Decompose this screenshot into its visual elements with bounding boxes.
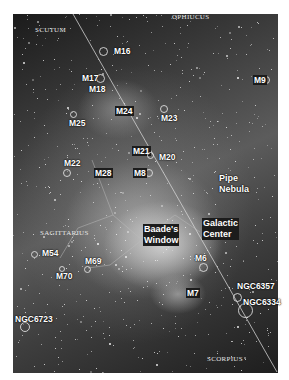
object-label-text: Pipe xyxy=(219,173,249,184)
object-marker-circle-icon xyxy=(199,263,208,272)
object-label-text: M24 xyxy=(116,106,133,116)
constellation-label-sagittarius: SAGITTARIUS xyxy=(40,229,89,237)
constellation-label-scorpius: SCORPIUS xyxy=(207,355,243,363)
object-label-text: M23 xyxy=(161,113,178,123)
object-label-ngc6723: NGC6723 xyxy=(15,314,53,324)
object-label-m8: M8 xyxy=(133,168,147,178)
object-label-m23: M23 xyxy=(161,113,178,123)
object-label-m18: M18 xyxy=(89,84,106,94)
object-label-text: M8 xyxy=(134,168,146,178)
object-marker-circle-icon xyxy=(63,169,71,177)
object-label-text: M25 xyxy=(69,118,86,128)
object-label-text: M16 xyxy=(114,46,131,56)
object-label-m7: M7 xyxy=(186,288,200,298)
sagittarius-constellation-lines xyxy=(60,160,200,268)
object-label-baadeswindow: Baade'sWindow xyxy=(143,224,179,246)
object-marker-circle-icon xyxy=(99,47,108,56)
object-label-text: M69 xyxy=(85,256,102,266)
object-marker-circle-icon xyxy=(147,152,154,159)
object-label-text: M20 xyxy=(159,152,176,162)
object-label-ngc6334: NGC6334 xyxy=(243,297,281,307)
object-label-text: M9 xyxy=(254,75,266,85)
object-label-text: Baade's xyxy=(144,224,178,235)
object-label-m28: M28 xyxy=(94,168,113,178)
object-marker-circle-icon xyxy=(31,251,38,258)
object-label-m16: M16 xyxy=(114,46,131,56)
object-label-m9: M9 xyxy=(253,75,267,85)
object-label-text: M7 xyxy=(187,288,199,298)
object-label-m22: M22 xyxy=(64,158,81,168)
object-label-m25: M25 xyxy=(69,118,86,128)
object-label-text: M28 xyxy=(95,168,112,178)
object-label-text: M17 xyxy=(82,73,99,83)
object-label-text-line2: Window xyxy=(144,235,178,246)
object-label-m24: M24 xyxy=(115,106,134,116)
object-label-text: M22 xyxy=(64,158,81,168)
object-label-text-line2: Center xyxy=(203,229,238,240)
object-label-galacticcenter: GalacticCenter xyxy=(202,218,239,240)
object-label-m54: M54 xyxy=(42,248,59,258)
object-marker-circle-icon xyxy=(70,111,77,118)
object-label-text-line2: Nebula xyxy=(219,184,249,195)
constellation-label-scutum: SCUTUM xyxy=(35,26,66,34)
object-label-text: NGC6357 xyxy=(237,281,275,291)
object-label-text: NGC6723 xyxy=(15,314,53,324)
object-marker-circle-icon xyxy=(233,293,242,302)
object-label-text: M70 xyxy=(56,271,73,281)
object-label-pipenebula: PipeNebula xyxy=(219,173,249,195)
object-label-m17: M17 xyxy=(82,73,99,83)
object-label-m20: M20 xyxy=(159,152,176,162)
object-marker-circle-icon xyxy=(84,266,91,273)
object-label-text: M18 xyxy=(89,84,106,94)
object-label-text: NGC6334 xyxy=(243,297,281,307)
object-marker-circle-icon xyxy=(160,105,168,113)
object-label-m69: M69 xyxy=(85,256,102,266)
object-label-text: M54 xyxy=(42,248,59,258)
object-label-m70: M70 xyxy=(56,271,73,281)
object-label-text: Galactic xyxy=(203,218,238,229)
object-label-ngc6357: NGC6357 xyxy=(237,281,275,291)
constellation-label-ophiucus: OPHIUCUS xyxy=(172,13,209,21)
object-label-m6: M6 xyxy=(195,253,207,263)
object-label-text: M6 xyxy=(195,253,207,263)
